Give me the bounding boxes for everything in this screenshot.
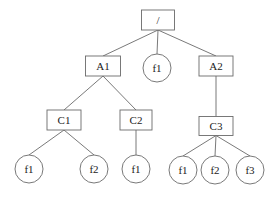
node-label: f2 bbox=[210, 164, 219, 176]
directory-tree-diagram: /A1f1A2C1C2C3f1f2f1f1f2f3 bbox=[0, 0, 278, 197]
edge-A1-C1 bbox=[64, 76, 103, 110]
tree-nodes: /A1f1A2C1C2C3f1f2f1f1f2f3 bbox=[15, 10, 264, 184]
directory-node-root: / bbox=[142, 10, 175, 30]
file-node-C1_f1: f1 bbox=[15, 155, 43, 183]
node-label: f1 bbox=[24, 163, 33, 175]
node-label: A1 bbox=[96, 60, 109, 72]
edge-root-A2 bbox=[158, 30, 216, 56]
directory-node-C1: C1 bbox=[47, 110, 81, 130]
file-node-C1_f2: f2 bbox=[80, 155, 108, 183]
node-label: C2 bbox=[130, 114, 143, 126]
edge-A1-C2 bbox=[103, 76, 136, 110]
directory-node-A1: A1 bbox=[86, 56, 121, 76]
tree-edges bbox=[29, 30, 250, 156]
edge-C1-C1_f1 bbox=[29, 130, 64, 155]
edge-C1-C1_f2 bbox=[64, 130, 94, 155]
node-label: f1 bbox=[152, 62, 161, 74]
directory-node-C2: C2 bbox=[120, 110, 152, 130]
edge-C3-C3_f1 bbox=[183, 136, 216, 157]
node-label: f1 bbox=[131, 163, 140, 175]
node-label: C1 bbox=[58, 114, 71, 126]
edge-root-root_f1 bbox=[157, 30, 158, 54]
tree-svg: /A1f1A2C1C2C3f1f2f1f1f2f3 bbox=[0, 0, 278, 197]
edge-C3-C3_f3 bbox=[216, 136, 250, 157]
node-label: C3 bbox=[210, 120, 223, 132]
node-label: f1 bbox=[178, 164, 187, 176]
file-node-root_f1: f1 bbox=[143, 54, 171, 82]
edge-root-A1 bbox=[103, 30, 158, 56]
edge-C3-C3_f2 bbox=[215, 136, 216, 157]
node-label: A2 bbox=[209, 60, 222, 72]
node-label: f2 bbox=[89, 163, 98, 175]
file-node-C3_f2: f2 bbox=[201, 156, 229, 184]
directory-node-C3: C3 bbox=[199, 117, 233, 136]
file-node-C3_f1: f1 bbox=[169, 156, 197, 184]
file-node-C3_f3: f3 bbox=[236, 156, 264, 184]
node-label: f3 bbox=[245, 164, 255, 176]
file-node-C2_f1: f1 bbox=[122, 155, 150, 183]
directory-node-A2: A2 bbox=[199, 56, 233, 76]
